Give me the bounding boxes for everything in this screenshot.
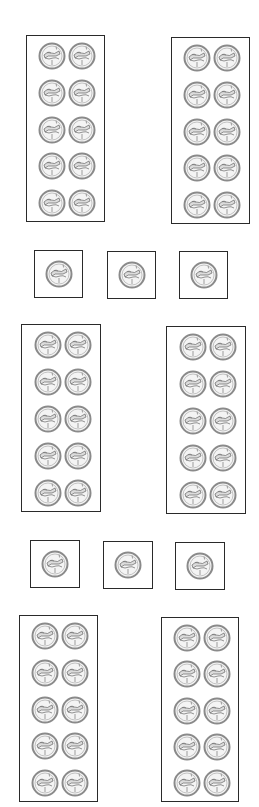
penny-coin-icon [213, 154, 241, 182]
ten-coin-box [26, 35, 105, 222]
penny-coin-icon [203, 769, 231, 797]
penny-coin-icon [31, 696, 59, 724]
penny-coin-icon [31, 659, 59, 687]
penny-coin-icon [45, 260, 73, 288]
penny-coin-icon [203, 660, 231, 688]
penny-coin-icon [213, 118, 241, 146]
penny-coin-icon [38, 116, 66, 144]
penny-coin-icon [183, 118, 211, 146]
penny-coin-icon [68, 189, 96, 217]
penny-coin-icon [203, 697, 231, 725]
penny-coin-icon [183, 154, 211, 182]
penny-coin-icon [61, 622, 89, 650]
penny-coin-icon [209, 444, 237, 472]
single-coin-box [30, 540, 80, 588]
penny-coin-icon [203, 624, 231, 652]
penny-coin-icon [38, 42, 66, 70]
penny-coin-icon [41, 550, 69, 578]
single-coin-box [179, 251, 228, 299]
penny-coin-icon [179, 333, 207, 361]
penny-coin-icon [68, 152, 96, 180]
penny-coin-icon [34, 479, 62, 507]
penny-coin-icon [213, 44, 241, 72]
penny-coin-icon [68, 116, 96, 144]
penny-coin-icon [209, 407, 237, 435]
penny-coin-icon [64, 442, 92, 470]
penny-coin-icon [34, 405, 62, 433]
penny-coin-icon [38, 189, 66, 217]
ten-coin-box [171, 37, 250, 224]
penny-coin-icon [209, 370, 237, 398]
penny-coin-icon [213, 81, 241, 109]
penny-coin-icon [173, 769, 201, 797]
penny-coin-icon [183, 44, 211, 72]
penny-coin-icon [68, 79, 96, 107]
penny-coin-icon [209, 333, 237, 361]
penny-coin-icon [64, 405, 92, 433]
penny-coin-icon [38, 79, 66, 107]
penny-coin-icon [61, 769, 89, 797]
penny-coin-icon [34, 368, 62, 396]
penny-coin-icon [179, 407, 207, 435]
penny-coin-icon [38, 152, 66, 180]
single-coin-box [103, 541, 153, 589]
penny-coin-icon [179, 444, 207, 472]
penny-coin-icon [64, 479, 92, 507]
penny-coin-icon [179, 370, 207, 398]
penny-coin-icon [203, 733, 231, 761]
penny-coin-icon [34, 442, 62, 470]
ten-coin-box [21, 324, 101, 512]
penny-coin-icon [209, 481, 237, 509]
penny-coin-icon [186, 552, 214, 580]
penny-coin-icon [31, 732, 59, 760]
penny-coin-icon [64, 331, 92, 359]
penny-coin-icon [173, 733, 201, 761]
ten-coin-box [166, 326, 246, 514]
penny-coin-icon [61, 696, 89, 724]
ten-coin-box [161, 617, 239, 802]
penny-coin-icon [183, 191, 211, 219]
single-coin-box [34, 250, 83, 298]
penny-coin-icon [68, 42, 96, 70]
penny-coin-icon [173, 660, 201, 688]
single-coin-box [175, 542, 225, 590]
penny-coin-icon [31, 622, 59, 650]
penny-coin-icon [61, 732, 89, 760]
penny-coin-icon [114, 551, 142, 579]
ten-coin-box [19, 615, 98, 802]
penny-coin-icon [179, 481, 207, 509]
penny-coin-icon [31, 769, 59, 797]
penny-coin-icon [183, 81, 211, 109]
penny-coin-icon [34, 331, 62, 359]
penny-coin-icon [190, 261, 218, 289]
penny-coin-icon [61, 659, 89, 687]
single-coin-box [107, 251, 156, 299]
penny-coin-icon [64, 368, 92, 396]
penny-coin-icon [213, 191, 241, 219]
penny-coin-icon [118, 261, 146, 289]
penny-coin-icon [173, 697, 201, 725]
penny-coin-icon [173, 624, 201, 652]
